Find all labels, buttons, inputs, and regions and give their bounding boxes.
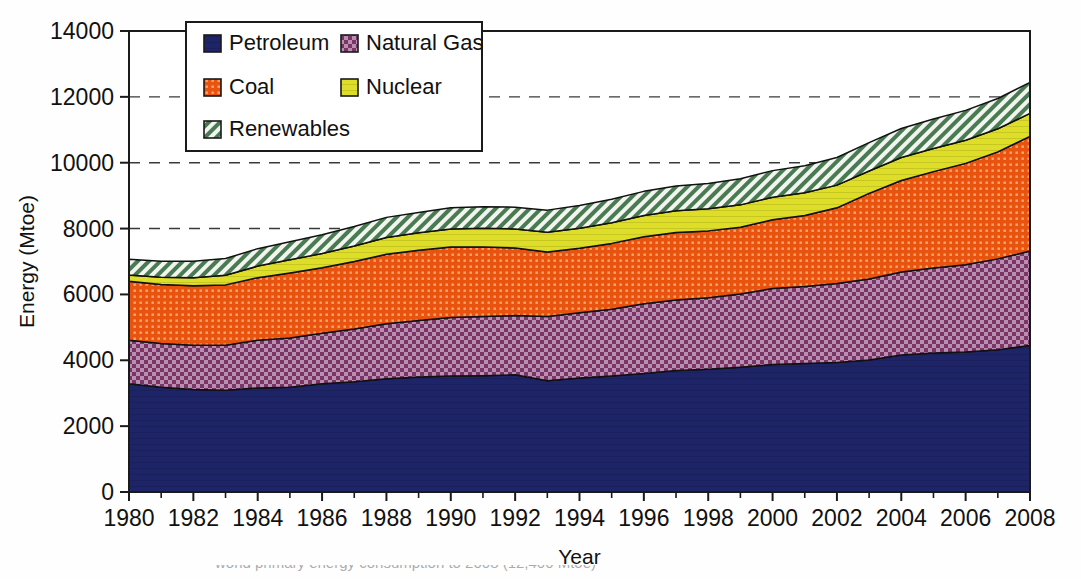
- x-tick-label-1992: 1992: [490, 505, 541, 531]
- y-tick-label-4000: 4000: [63, 347, 114, 373]
- y-tick-label-0: 0: [101, 479, 114, 505]
- legend-label-coal: Coal: [229, 74, 274, 99]
- chart-legend: PetroleumNatural GasCoalNuclearRenewable…: [186, 22, 483, 151]
- x-tick-label-1982: 1982: [168, 505, 219, 531]
- y-tick-label-14000: 14000: [50, 18, 114, 44]
- x-tick-label-1980: 1980: [103, 505, 154, 531]
- x-tick-label-1994: 1994: [554, 505, 605, 531]
- legend-label-natural-gas: Natural Gas: [366, 30, 483, 55]
- x-tick-label-2004: 2004: [876, 505, 927, 531]
- x-tick-label-1996: 1996: [618, 505, 669, 531]
- legend-swatch-natural-gas: [341, 35, 358, 52]
- chart-page: 0200040006000800010000120001400019801982…: [0, 0, 1081, 579]
- legend-swatch-nuclear: [341, 79, 358, 96]
- x-tick-label-2000: 2000: [747, 505, 798, 531]
- stacked-area-chart: 0200040006000800010000120001400019801982…: [0, 0, 1081, 579]
- y-tick-label-2000: 2000: [63, 413, 114, 439]
- legend-swatch-renewables: [204, 121, 221, 138]
- legend-swatch-coal: [204, 79, 221, 96]
- legend-swatch-petroleum: [204, 35, 221, 52]
- x-tick-label-2006: 2006: [940, 505, 991, 531]
- legend-label-renewables: Renewables: [229, 116, 350, 141]
- x-tick-label-1986: 1986: [296, 505, 347, 531]
- x-tick-label-2002: 2002: [811, 505, 862, 531]
- x-tick-label-1984: 1984: [232, 505, 283, 531]
- x-tick-label-1990: 1990: [425, 505, 476, 531]
- caption-clipped-strip: world primary energy consumption to 2008…: [0, 565, 1081, 579]
- y-tick-label-10000: 10000: [50, 150, 114, 176]
- y-axis-title: Energy (Mtoe): [15, 195, 38, 328]
- y-tick-label-8000: 8000: [63, 216, 114, 242]
- figure-caption: world primary energy consumption to 2008…: [215, 565, 596, 571]
- x-tick-label-1988: 1988: [361, 505, 412, 531]
- y-tick-label-12000: 12000: [50, 84, 114, 110]
- legend-label-petroleum: Petroleum: [229, 30, 329, 55]
- x-tick-label-2008: 2008: [1004, 505, 1055, 531]
- x-tick-label-1998: 1998: [683, 505, 734, 531]
- y-tick-label-6000: 6000: [63, 281, 114, 307]
- legend-label-nuclear: Nuclear: [366, 74, 442, 99]
